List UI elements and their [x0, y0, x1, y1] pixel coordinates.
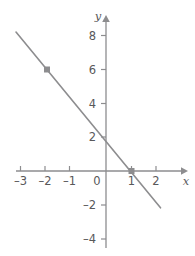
linear-graph-figure: –3 –2 –1 0 1 2 x 8 6 4 2 –2 –4 y — [0, 0, 195, 256]
coordinate-plane-svg: –3 –2 –1 0 1 2 x 8 6 4 2 –2 –4 y — [0, 0, 195, 256]
x-tick-label--3: –3 — [14, 174, 27, 188]
x-tick-label--2: –2 — [38, 174, 51, 188]
y-tick-label-4: 4 — [89, 97, 96, 111]
x-tick-label--1: –1 — [63, 174, 76, 188]
x-tick-label-0: 0 — [93, 174, 100, 188]
y-tick-label-8: 8 — [89, 29, 96, 43]
y-tick-label-2: 2 — [89, 130, 96, 144]
data-point-marker — [129, 168, 135, 174]
data-point-marker — [44, 67, 50, 73]
x-axis-label: x — [183, 174, 190, 188]
y-tick-label--4: –4 — [83, 232, 96, 246]
x-tick-label-2: 2 — [152, 174, 159, 188]
x-axis-group: –3 –2 –1 0 1 2 x — [14, 166, 190, 188]
y-tick-label-6: 6 — [89, 63, 96, 77]
y-axis-label: y — [94, 9, 102, 23]
y-tick-label--2: –2 — [83, 198, 96, 212]
y-axis-group: 8 6 4 2 –2 –4 y — [83, 9, 110, 248]
y-axis-arrow-icon — [102, 15, 110, 22]
